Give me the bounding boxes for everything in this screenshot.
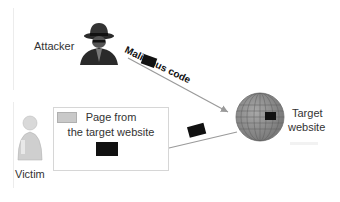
diagram-graphics <box>0 0 340 202</box>
globe-icon <box>236 93 284 141</box>
target-underline <box>290 142 318 145</box>
user-icon <box>18 116 42 160</box>
returned-code-block <box>187 123 206 138</box>
victim-label: Victim <box>15 168 45 180</box>
hacker-icon <box>80 23 118 65</box>
target-label-line1: Target <box>292 107 323 119</box>
target-label-line2: website <box>288 121 325 133</box>
attack-arrow <box>128 58 228 112</box>
page-from-target: Page from the target website <box>53 107 169 171</box>
attacker-label: Attacker <box>34 40 74 52</box>
page-label-line2: the target website <box>54 126 168 138</box>
page-label-line1: Page from <box>54 111 168 123</box>
injected-code-block <box>96 142 118 156</box>
